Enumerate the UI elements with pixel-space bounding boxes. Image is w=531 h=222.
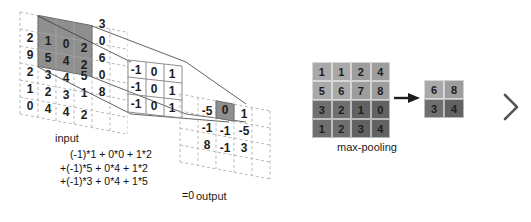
input-cell: 2	[21, 32, 39, 44]
input-cell: 0	[57, 38, 75, 50]
input-volume: 3 2 1 0 2 0 9 5 4 2 6 2 3 4 5 0 1 2 3 1 …	[16, 10, 128, 134]
maxpool-result-cell: 3	[424, 99, 444, 118]
kernel-cell: -1	[127, 64, 145, 76]
input-cell: 4	[57, 72, 75, 84]
maxpool-cell: 0	[371, 100, 391, 119]
maxpool-cell: 1	[312, 119, 332, 138]
maxpool-result-cell: 4	[444, 99, 464, 118]
input-cell: 2	[21, 66, 39, 78]
input-cell: 5	[39, 52, 57, 64]
output-cell: -5	[198, 105, 216, 117]
input-cell: 1	[39, 35, 57, 47]
input-cell: 5	[75, 70, 93, 82]
kernel-cell: -1	[127, 81, 145, 93]
diagram-canvas: 3 2 1 0 2 0 9 5 4 2 6 2 3 4 5 0 1 2 3 1 …	[0, 0, 531, 222]
maxpool-label: max-pooling	[337, 141, 397, 153]
output-cell: 0	[216, 104, 234, 116]
maxpool-cell: 4	[371, 62, 391, 81]
maxpool-cell: 4	[371, 119, 391, 138]
maxpool-cell: 2	[332, 100, 352, 119]
equation-line: +(-1)*5 + 0*4 + 1*2	[60, 162, 200, 176]
output-cell: -1	[216, 125, 234, 137]
input-label: input	[55, 132, 79, 144]
maxpool-cell: 1	[351, 100, 371, 119]
output-cell: -1	[198, 122, 216, 134]
equation-result: =0	[60, 189, 200, 203]
input-cell: 2	[75, 42, 93, 54]
maxpool-cell: 8	[371, 81, 391, 100]
chevron-right-icon	[500, 92, 520, 122]
output-cell: -5	[235, 125, 253, 137]
input-cell: 2	[75, 109, 93, 121]
maxpool-result-cell: 8	[444, 80, 464, 99]
equation-line: (-1)*1 + 0*0 + 1*2	[60, 148, 200, 162]
input-cell: 4	[57, 106, 75, 118]
output-cell: 1	[235, 108, 253, 120]
maxpool-result-grid: 6 8 3 4	[424, 80, 464, 118]
input-cell: 0	[93, 35, 111, 47]
input-cell: 4	[39, 103, 57, 115]
maxpool-cell: 3	[351, 119, 371, 138]
input-cell: 1	[21, 83, 39, 95]
maxpool-cell: 7	[351, 81, 371, 100]
kernel-cell: 0	[145, 100, 163, 112]
maxpool-cell: 5	[312, 81, 332, 100]
input-cell: 3	[39, 69, 57, 81]
input-cell: 8	[93, 86, 111, 98]
input-cell: 3	[93, 18, 111, 30]
output-cell: 8	[198, 139, 216, 151]
input-cell: 0	[93, 69, 111, 81]
input-cell: 9	[21, 49, 39, 61]
kernel-cell: 1	[163, 68, 181, 80]
input-cell: 1	[75, 87, 93, 99]
maxpool-result-cell: 6	[424, 80, 444, 99]
output-cell: -1	[216, 142, 234, 154]
output-cell: 3	[235, 142, 253, 154]
maxpool-source-grid: 1 1 2 4 5 6 7 8 3 2 1 0 1 2 3 4	[312, 62, 390, 138]
equation-line: +(-1)*3 + 0*4 + 1*5	[60, 175, 200, 189]
maxpool-cell: 2	[332, 119, 352, 138]
maxpool-cell: 6	[332, 81, 352, 100]
maxpool-cell: 3	[312, 100, 332, 119]
right-arrow-icon	[394, 92, 420, 104]
kernel-cell: 0	[145, 83, 163, 95]
input-cell: 6	[93, 52, 111, 64]
output-label: output	[196, 190, 227, 202]
maxpool-cell: 1	[312, 62, 332, 81]
convolution-equation: (-1)*1 + 0*0 + 1*2 +(-1)*5 + 0*4 + 1*2 +…	[60, 148, 200, 202]
maxpool-cell: 1	[332, 62, 352, 81]
input-cell: 2	[39, 86, 57, 98]
input-cell: 0	[21, 100, 39, 112]
input-cell: 3	[57, 89, 75, 101]
kernel-cell: 0	[145, 66, 163, 78]
input-cell: 4	[57, 55, 75, 67]
maxpool-cell: 2	[351, 62, 371, 81]
kernel-cell: -1	[127, 98, 145, 110]
